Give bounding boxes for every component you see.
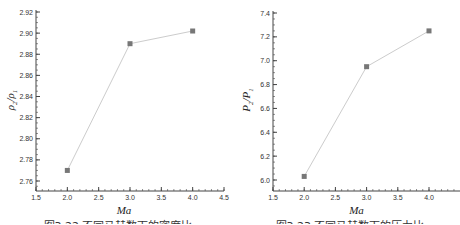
x-tick-label: 3.5 [393,194,403,201]
figure-caption: 图3.23 不同马赫数下的压力比 [276,219,425,224]
data-point-marker [65,168,70,173]
y-tick-label: 2.84 [19,93,33,100]
y-tick-label: 2.82 [19,114,33,121]
x-tick-label: 2.5 [94,194,104,201]
y-tick-label: 2.92 [19,9,33,16]
figure-caption: 图3.22 不同马赫数下的密度比 [44,219,193,224]
x-tick-label: 3.0 [125,194,135,201]
y-tick-label: 2.78 [19,156,33,163]
chart-2: 6.06.26.46.66.87.07.27.41.52.02.53.03.54… [240,10,460,225]
chart-canvas: 2.762.782.802.822.842.862.882.902.921.52… [0,0,460,224]
y-tick-label: 6.6 [260,105,270,112]
data-point-marker [128,41,133,46]
x-tick-label: 3.0 [362,194,372,201]
x-tick-label: 4.5 [219,194,229,201]
x-axis-title: Ma [348,204,364,216]
x-tick-label: 2.0 [62,194,72,201]
y-tick-label: 2.90 [19,30,33,37]
data-point-marker [427,28,432,33]
y-tick-label: 6.0 [260,177,270,184]
y-tick-label: 2.88 [19,51,33,58]
y-tick-label: 2.80 [19,135,33,142]
chart-1: 2.762.782.802.822.842.862.882.902.921.52… [4,9,229,225]
y-tick-label: 2.86 [19,72,33,79]
y-tick-label: 7.2 [260,33,270,40]
data-point-marker [190,29,195,34]
data-point-marker [364,64,369,69]
data-point-marker [302,174,307,179]
y-tick-label: 2.76 [19,178,33,185]
x-tick-label: 1.5 [268,194,278,201]
x-tick-label: 2.5 [331,194,341,201]
data-line [67,31,192,170]
y-axis-title: P2/P1 [240,88,255,113]
x-tick-label: 3.5 [156,194,166,201]
x-axis-title: Ma [116,204,132,216]
x-tick-label: 4.0 [188,194,198,201]
x-tick-label: 1.5 [31,194,41,201]
y-tick-label: 7.4 [260,10,270,17]
y-tick-label: 6.8 [260,81,270,88]
x-tick-label: 2.0 [299,194,309,201]
y-tick-label: 6.4 [260,129,270,136]
data-line [304,31,429,177]
x-tick-label: 4.0 [424,194,434,201]
y-axis-title: ρ2/ρ1 [4,90,19,112]
y-tick-label: 7.0 [260,57,270,64]
y-tick-label: 6.2 [260,153,270,160]
